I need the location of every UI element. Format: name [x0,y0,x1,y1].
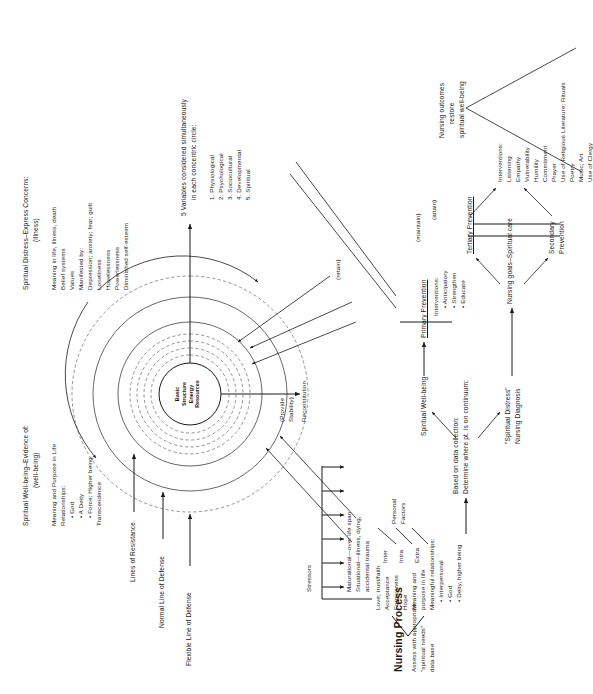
stressor-arrows [238,276,356,542]
interventions-fork [470,188,552,216]
intervention-item: Poetry [568,163,575,182]
based-on-data-label: Based on data collection: [452,417,460,494]
provide-stability-line: Stability) [287,397,294,422]
relationship-bullet: • God [446,586,453,602]
distress-heading: Spiritual Distress–Express Concerns: [22,176,30,290]
primary-intervention-item: • Strengthen [450,272,457,308]
secondary-prevention-label: Secondary [548,221,556,254]
need-item: Hope [401,595,408,610]
intervention-item: Prayer [550,163,557,182]
tertiary-prevention-label: Tertiary Prevention [466,197,474,254]
outcomes-line: Nursing outcomes [438,83,446,138]
wellbeing-sweep-arrow [65,302,96,458]
factor-type: Intra [397,550,404,563]
need-item: Forgiveness [392,575,399,610]
retain-label: (retain) [334,259,341,280]
determine-continuum-label: Determine where pt. is on continuum: [462,380,470,494]
wellbeing-bullet: • A Deity [77,494,84,518]
wellbeing-transcendence: Transcendence [95,482,102,526]
need-item: Acceptance [383,576,390,610]
distress-line: Diminished self-esteem [122,223,129,290]
variable-item: 2. Psychological [217,153,224,200]
distress-line: Values [68,271,75,290]
maintain-label: (maintain) [414,213,421,242]
variable-item: 1. Physiological [208,155,215,200]
primary-prevention-label: Primary Prevention [420,280,428,338]
outcomes-line: spiritual well-being [458,81,466,138]
normal-line-label: Normal Line of Defense [158,556,166,628]
core-label: Basic Structure Energy Resources [174,368,201,420]
wellbeing-line: Relationships: [59,485,66,526]
reconstitution-label: Reconstitution [300,381,307,422]
core-line: Energy [188,368,195,420]
wellbeing-bullet: • Force; Higher being [86,457,93,518]
intervention-item: Humility [532,159,539,182]
variable-item: 3. Sociocultural [226,156,233,200]
factor-type: Extra [413,548,420,563]
core-line: Structure [181,368,188,420]
assess-line3: data base [428,644,435,672]
variables-subheading: in each concentric circle: [190,124,198,200]
relationship-bullet: • Interpersonal [437,560,444,602]
personal-factors-fan [378,528,428,544]
personal-factors-label: Personal [390,499,397,524]
variable-item: 5. Spiritual [244,169,251,200]
secondary-prevention-label: Prevention [558,221,566,254]
need-item: Meaningful relationships: [428,538,435,610]
distress-line: Hopelessness [104,250,111,290]
wellbeing-heading: Spiritual Well-being–Evidence of: [22,425,30,526]
intervention-item: Commitment [541,146,548,182]
intervention-item: Music; Art [577,154,584,182]
distress-line: Loneliness [95,259,102,290]
distress-line: Meaning in life, illness, death [50,207,57,290]
nursing-goals-label: Nursing goals–Spiritual care [506,218,514,304]
intervention-item: Use of Clergy [586,143,593,182]
flexible-line-label: Flexible Line of Defense [185,592,193,666]
stressor-item: Situational—illness, dying, [354,516,361,592]
intervention-item: Empathy [514,157,521,182]
ring-pointer-lines [134,454,190,566]
intervention-item: Use of Religious Literature; Rituals [559,82,566,182]
distress-line: Powerlessness [113,247,120,290]
assess-heading: Assess with appropriate [410,603,417,672]
distress-line: Belief systems [59,248,66,290]
interventions-heading: Interventions: [496,143,503,182]
variables-heading: 5 Variables considered simultaneously [180,99,188,216]
distress-line: Manifested by: [77,248,84,290]
need-item: Meaning and [410,573,417,610]
distress-subheading: (illness) [32,218,40,242]
factor-type: Inter [381,550,388,563]
primary-interventions-heading: Interventions: [432,277,439,316]
nursing-diagnosis-node: Nursing Diagnosis [514,388,522,444]
assess-line2: "spiritual needs" [419,626,426,672]
need-item: Love; trust/faith [374,566,381,610]
intervention-item: Listening [505,156,512,182]
stressor-item: accidental trauma [363,541,370,592]
distress-line: Depression; anxiety; fear; guilt [86,203,93,290]
provide-stability-line: (Provide [278,398,285,422]
lines-of-resistance-label: Lines of Resistance [129,522,137,582]
primary-intervention-item: • Anticipatory [441,270,448,308]
wellbeing-bullet: • God [68,502,75,518]
personal-factors-label: Factors [399,503,406,525]
stressor-item: Maturational—over life span [345,512,352,592]
wellbeing-subheading: (well-being) [32,452,40,488]
attain-label: (attain) [430,200,437,220]
intervention-item: Vulnerability [523,147,530,182]
variable-item: 4. Developmental [235,150,242,200]
outcomes-line: restore [448,103,456,124]
spiritual-wellbeing-node: Spiritual Well-being [420,377,428,436]
core-line: Resources [194,368,201,420]
wellbeing-line: Meaning and Purpose in Life [50,444,57,526]
core-line: Basic [174,368,181,420]
stressors-heading: Stressors [305,565,312,592]
primary-intervention-item: • Educate [459,280,466,308]
need-item: purpose in life [419,570,426,610]
relationship-bullet: • Deity, higher being [455,544,462,602]
spiritual-distress-node: "Spiritual Distress" [504,387,512,444]
